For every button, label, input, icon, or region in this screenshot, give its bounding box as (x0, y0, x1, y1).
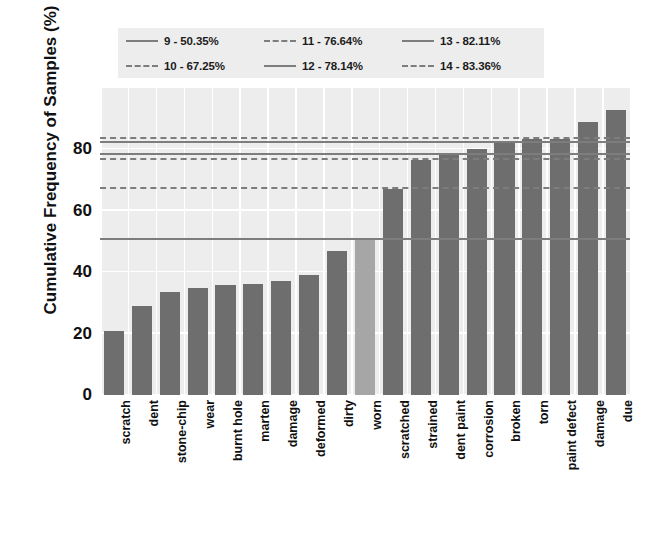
x-tick-dirty-8: dirty (342, 400, 356, 427)
gridline-vertical (212, 88, 214, 395)
gridline-vertical (156, 88, 158, 395)
chart-figure: 9 - 50.35%11 - 76.64%13 - 82.11%10 - 67.… (0, 0, 646, 545)
bar-damage (578, 122, 598, 395)
gridline-vertical (239, 88, 241, 395)
x-tick-stone-chip-2: stone-chip (175, 400, 189, 463)
x-tick-torn-15: torn (537, 400, 551, 424)
bar-dirty (327, 251, 347, 395)
bar-damage (271, 281, 291, 395)
bar-broken (494, 143, 514, 395)
gridline-vertical (100, 88, 102, 395)
bar-dent (132, 306, 152, 395)
gridline-vertical (491, 88, 493, 395)
bar-dent-paint (439, 155, 459, 395)
bar-wear (188, 288, 208, 395)
y-tick-0: 0 (52, 385, 92, 405)
bar-deformed (299, 275, 319, 395)
x-tick-due-18: due (621, 400, 635, 422)
gridline-vertical (463, 88, 465, 395)
x-tick-corrosion-13: corrosion (482, 400, 496, 458)
x-tick-marten-5: marten (258, 400, 272, 442)
gridline-vertical (435, 88, 437, 395)
x-tick-paint-defect-16: paint defect (565, 400, 579, 470)
gridline-vertical (323, 88, 325, 395)
x-tick-broken-14: broken (509, 400, 523, 442)
bar-torn (522, 139, 542, 395)
gridline-vertical (379, 88, 381, 395)
y-tick-20: 20 (52, 324, 92, 344)
reference-line-11 (100, 158, 630, 160)
reference-line-14 (100, 137, 630, 139)
plot-area (100, 88, 630, 395)
x-tick-scratch-0: scratch (119, 400, 133, 444)
bar-scratched (383, 189, 403, 395)
gridline-vertical (546, 88, 548, 395)
gridline-vertical (184, 88, 186, 395)
reference-line-9 (100, 238, 630, 240)
x-tick-worn-9: worn (370, 400, 384, 430)
y-tick-80: 80 (52, 139, 92, 159)
reference-line-10 (100, 187, 630, 189)
bar-scratch (104, 331, 124, 395)
y-tick-60: 60 (52, 201, 92, 221)
x-tick-deformed-7: deformed (314, 400, 328, 457)
x-tick-damage-6: damage (286, 400, 300, 447)
x-tick-damage-17: damage (593, 400, 607, 447)
gridline-vertical (267, 88, 269, 395)
bar-burnt-hole (215, 285, 235, 395)
x-tick-scratched-10: scratched (398, 400, 412, 459)
y-tick-40: 40 (52, 262, 92, 282)
bar-worn (355, 240, 375, 395)
x-tick-dent-paint-12: dent paint (454, 400, 468, 460)
x-tick-burnt-hole-4: burnt hole (231, 400, 245, 461)
gridline-vertical (128, 88, 130, 395)
reference-line-12 (100, 153, 630, 155)
x-tick-strained-11: strained (426, 400, 440, 449)
x-tick-dent-1: dent (147, 400, 161, 426)
gridline-vertical (630, 88, 632, 395)
bar-stone-chip (160, 292, 180, 395)
gridline-vertical (574, 88, 576, 395)
reference-line-13 (100, 141, 630, 143)
bar-strained (411, 160, 431, 395)
gridline-vertical (351, 88, 353, 395)
bar-marten (243, 284, 263, 395)
gridline-vertical (295, 88, 297, 395)
bar-paint-defect (550, 139, 570, 395)
x-tick-wear-3: wear (203, 400, 217, 429)
gridline-vertical (518, 88, 520, 395)
gridline-vertical (602, 88, 604, 395)
gridline-vertical (407, 88, 409, 395)
